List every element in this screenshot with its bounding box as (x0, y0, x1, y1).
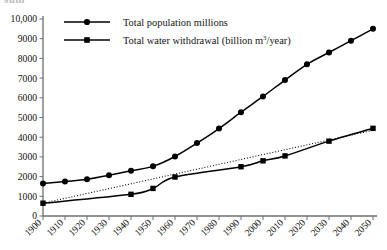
x-axis-tick-labels: 1900191019201930194019501960197019801990… (22, 216, 373, 237)
x-tick-label: 2010 (264, 216, 285, 237)
data-point-marker (106, 172, 112, 178)
x-tick-label: 1930 (88, 216, 109, 237)
data-point-marker (282, 77, 288, 83)
y-tick-label: 10,000 (11, 13, 38, 24)
chart-figure: sum 010002000300040005000600070008000900… (0, 0, 387, 250)
series-line (43, 29, 373, 184)
legend-square-marker-icon (84, 37, 90, 43)
x-tick-label: 1980 (198, 216, 219, 237)
legend-entry-2: Total water withdrawal (billion m3/year) (64, 34, 291, 46)
data-point-marker (260, 93, 266, 99)
data-point-marker (348, 38, 354, 44)
data-point-marker (326, 49, 332, 55)
x-tick-label: 2040 (330, 216, 351, 237)
x-tick-label: 2000 (242, 216, 263, 237)
data-point-marker (128, 168, 134, 174)
legend-label: Total water withdrawal (billion m3/year) (123, 34, 291, 46)
x-tick-label: 1970 (176, 216, 197, 237)
y-tick-label: 3000 (18, 151, 37, 162)
data-point-marker (304, 61, 310, 67)
data-point-marker (238, 164, 243, 169)
x-tick-label: 2030 (308, 216, 329, 237)
clipped-heading-text: sum (4, 0, 25, 5)
legend-entry-1: Total population millions (64, 17, 228, 28)
y-axis-tick-labels: 010002000300040005000600070008000900010,… (11, 13, 38, 221)
data-point-marker (238, 109, 244, 115)
data-point-marker (128, 192, 133, 197)
y-tick-label: 9000 (18, 33, 37, 44)
series-line (43, 130, 373, 203)
y-tick-label: 4000 (18, 132, 37, 143)
x-tick-label: 1950 (132, 216, 153, 237)
series-2 (40, 126, 375, 206)
y-tick-label: 6000 (18, 92, 37, 103)
y-tick-label: 5000 (18, 112, 37, 123)
data-point-marker (216, 126, 222, 132)
data-point-marker (172, 174, 177, 179)
x-tick-label: 1990 (220, 216, 241, 237)
y-tick-label: 2000 (18, 171, 37, 182)
x-tick-label: 1900 (22, 216, 43, 237)
data-point-marker (370, 126, 375, 131)
x-tick-label: 1940 (110, 216, 131, 237)
data-point-marker (84, 176, 90, 182)
data-point-marker (150, 163, 156, 169)
data-point-marker (370, 26, 376, 32)
y-tick-label: 1000 (18, 191, 37, 202)
x-tick-label: 2050 (352, 216, 373, 237)
data-point-marker (326, 138, 331, 143)
population-water-withdrawal-line-chart: 010002000300040005000600070008000900010,… (0, 0, 387, 250)
data-point-marker (150, 186, 155, 191)
data-point-marker (40, 180, 46, 186)
y-tick-label: 8000 (18, 53, 37, 64)
data-point-marker (172, 154, 178, 160)
series-3 (43, 130, 373, 203)
y-tick-label: 7000 (18, 73, 37, 84)
x-tick-label: 2020 (286, 216, 307, 237)
x-tick-label: 1960 (154, 216, 175, 237)
data-point-marker (62, 179, 68, 185)
data-series-layer (40, 26, 376, 206)
x-tick-label: 1920 (66, 216, 87, 237)
legend-circle-marker-icon (84, 19, 90, 25)
data-point-marker (260, 158, 265, 163)
x-tick-label: 1910 (44, 216, 65, 237)
series-1 (40, 26, 376, 187)
data-point-marker (194, 140, 200, 146)
legend-label: Total population millions (123, 17, 228, 28)
data-point-marker (282, 153, 287, 158)
chart-legend: Total population millionsTotal water wit… (64, 17, 291, 47)
series-line (43, 128, 373, 203)
